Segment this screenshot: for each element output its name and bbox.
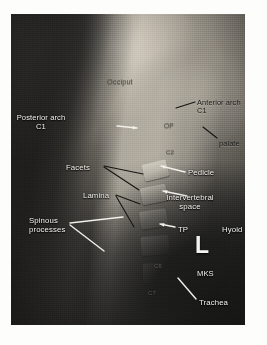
lead-anterior-arch [176, 102, 195, 108]
laterality-marker-left: L [195, 232, 209, 259]
annotation-label-c7: C7 [148, 290, 156, 297]
annotation-label-c2: C2 [166, 149, 174, 156]
annotation-label-intervertebral-space: Intervertebral space [166, 194, 213, 211]
lead-spinous-upper [70, 217, 123, 223]
annotation-label-anterior-arch-c1: Anterior arch C1 [197, 99, 241, 116]
annotation-label-spinous-processes: Spinous processes [29, 217, 65, 234]
annotation-label-mks: MKS [197, 270, 214, 279]
lead-spinous-lower [70, 225, 104, 251]
annotation-label-posterior-arch-c1: Posterior arch C1 [17, 114, 66, 131]
annotation-label-c6: C6 [154, 263, 162, 270]
lead-facets-b [104, 167, 139, 190]
annotation-label-tp: TP [178, 226, 188, 235]
lead-facets-a [104, 166, 143, 174]
screenshot-root: Posterior arch C1FacetsLaminaSpinous pro… [0, 0, 267, 345]
lead-trachea [178, 278, 196, 299]
cervical-spine-radiograph: Posterior arch C1FacetsLaminaSpinous pro… [11, 14, 245, 325]
annotation-label-op: OP [164, 122, 174, 129]
annotation-overlay: Posterior arch C1FacetsLaminaSpinous pro… [11, 14, 245, 325]
annotation-label-facets: Facets [66, 164, 90, 173]
annotation-label-pedicle: Pedicle [188, 169, 214, 178]
annotation-label-trachea: Trachea [199, 299, 228, 308]
annotation-label-lamina: Lamina [83, 192, 109, 201]
annotation-label-hyoid: Hyoid [222, 226, 242, 235]
annotation-label-palate: palate [219, 140, 240, 148]
annotation-label-occiput: Occiput [107, 78, 133, 86]
lead-palate [203, 127, 217, 138]
